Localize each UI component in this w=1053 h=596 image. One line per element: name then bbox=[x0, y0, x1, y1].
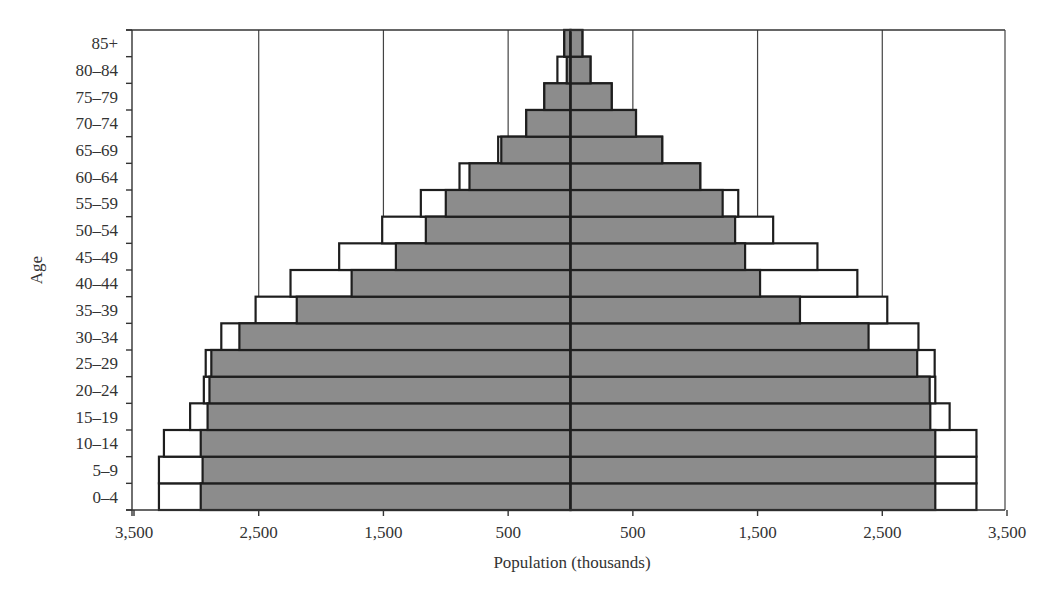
y-tick-label: 30–34 bbox=[76, 328, 119, 347]
bar-right-80–84 bbox=[571, 57, 591, 84]
bar-right-60–64 bbox=[571, 163, 701, 190]
y-tick-label: 0–4 bbox=[93, 488, 119, 507]
bar-right-40–44 bbox=[571, 270, 761, 297]
bar-left-40–44 bbox=[352, 270, 571, 297]
y-tick-label: 45–49 bbox=[76, 248, 119, 267]
bar-right-50–54 bbox=[571, 217, 736, 244]
bar-right-20–24 bbox=[571, 377, 930, 404]
bar-right-75–79 bbox=[571, 83, 612, 110]
x-tick-label: 2,500 bbox=[863, 523, 901, 542]
bar-right-15–19 bbox=[571, 403, 931, 430]
x-tick-label: 3,500 bbox=[115, 523, 153, 542]
bar-left-30–34 bbox=[239, 323, 570, 350]
bar-right-65–69 bbox=[571, 137, 663, 164]
y-tick-label: 75–79 bbox=[76, 88, 119, 107]
bar-right-30–34 bbox=[571, 323, 869, 350]
y-tick-label: 70–74 bbox=[76, 114, 119, 133]
bar-left-35–39 bbox=[297, 297, 571, 324]
x-tick-label: 2,500 bbox=[240, 523, 278, 542]
y-tick-label: 85+ bbox=[91, 34, 118, 53]
y-tick-label: 50–54 bbox=[76, 221, 119, 240]
y-tick-label: 25–29 bbox=[76, 354, 119, 373]
bar-left-0–4 bbox=[201, 483, 571, 510]
bar-right-35–39 bbox=[571, 297, 800, 324]
bar-left-60–64 bbox=[469, 163, 570, 190]
y-tick-label: 55–59 bbox=[76, 194, 119, 213]
bar-left-25–29 bbox=[211, 350, 570, 377]
bar-right-25–29 bbox=[571, 350, 918, 377]
y-tick-label: 20–24 bbox=[76, 381, 119, 400]
bar-left-65–69 bbox=[501, 137, 570, 164]
bar-left-15–19 bbox=[208, 403, 571, 430]
y-axis-tick-labels: 0–45–910–1415–1920–2425–2930–3435–3940–4… bbox=[76, 34, 119, 506]
x-tick-label: 1,500 bbox=[738, 523, 776, 542]
x-axis-title: Population (thousands) bbox=[493, 553, 650, 572]
bar-right-85+ bbox=[571, 30, 583, 57]
x-tick-label: 500 bbox=[495, 523, 521, 542]
bar-left-10–14 bbox=[201, 430, 571, 457]
bar-left-50–54 bbox=[426, 217, 571, 244]
bar-left-20–24 bbox=[209, 377, 570, 404]
x-tick-label: 500 bbox=[620, 523, 646, 542]
bar-right-5–9 bbox=[571, 457, 936, 484]
y-tick-label: 60–64 bbox=[76, 168, 119, 187]
bar-left-75–79 bbox=[544, 83, 570, 110]
bar-right-10–14 bbox=[571, 430, 936, 457]
bar-right-45–49 bbox=[571, 243, 746, 270]
x-tick-label: 1,500 bbox=[364, 523, 402, 542]
bar-right-70–74 bbox=[571, 110, 636, 137]
bar-left-55–59 bbox=[446, 190, 571, 217]
x-tick-label: 3,500 bbox=[988, 523, 1026, 542]
y-tick-label: 5–9 bbox=[93, 461, 119, 480]
y-tick-label: 40–44 bbox=[76, 274, 119, 293]
bar-right-55–59 bbox=[571, 190, 723, 217]
bar-left-45–49 bbox=[396, 243, 571, 270]
bar-left-5–9 bbox=[203, 457, 571, 484]
x-axis-tick-labels: 3,5002,5001,5005005001,5002,5003,500 bbox=[115, 523, 1026, 542]
y-axis-ticks bbox=[126, 30, 132, 510]
y-tick-label: 10–14 bbox=[76, 434, 119, 453]
y-tick-label: 35–39 bbox=[76, 301, 119, 320]
bar-right-0–4 bbox=[571, 483, 936, 510]
bar-left-70–74 bbox=[526, 110, 570, 137]
y-tick-label: 65–69 bbox=[76, 141, 119, 160]
y-tick-label: 80–84 bbox=[76, 61, 119, 80]
population-pyramid-chart: 0–45–910–1415–1920–2425–2930–3435–3940–4… bbox=[0, 0, 1053, 596]
y-tick-label: 15–19 bbox=[76, 408, 119, 427]
y-axis-title: Age bbox=[27, 256, 46, 284]
